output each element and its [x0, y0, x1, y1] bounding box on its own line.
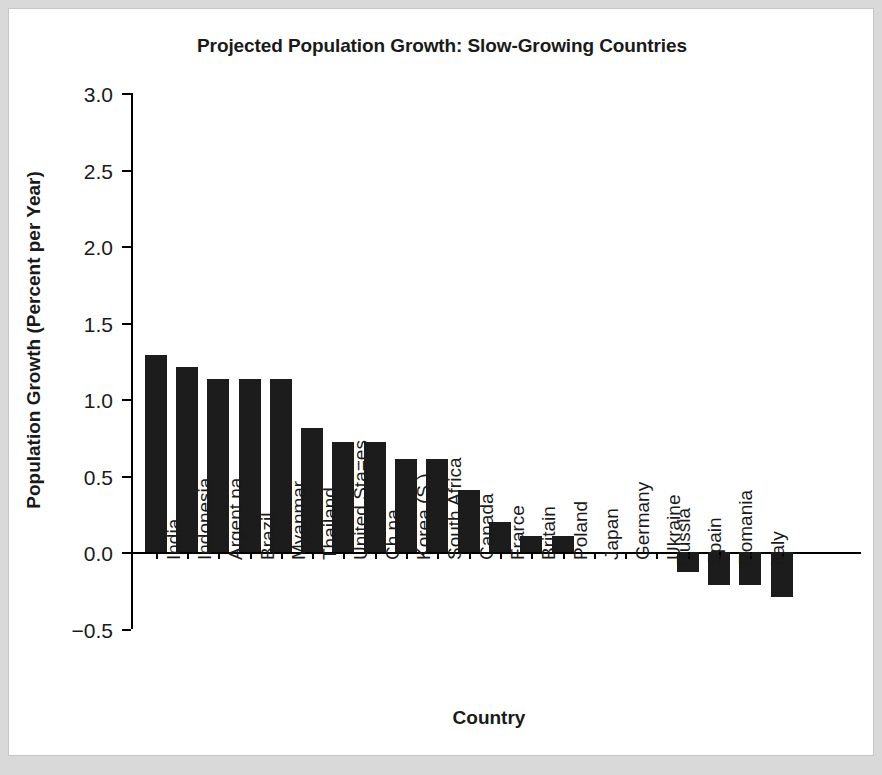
x-tick — [437, 552, 439, 559]
x-tick — [375, 552, 377, 559]
y-tick-label: 2.0 — [43, 236, 113, 260]
x-category-label: South Africa — [444, 458, 466, 560]
x-tick — [312, 552, 314, 559]
y-tick: 1.0 — [122, 399, 131, 401]
y-tick-label: 1.0 — [43, 389, 113, 413]
x-category-label: Japan — [601, 509, 623, 561]
y-tick-label: −0.5 — [43, 619, 113, 643]
x-category-label: Brazil — [257, 513, 279, 561]
x-category-label: Italy — [767, 532, 789, 567]
y-tick-label: 0.0 — [43, 542, 113, 566]
chart-figure: Projected Population Growth: Slow-Growin… — [8, 8, 874, 756]
y-tick: 2.5 — [122, 170, 131, 172]
y-tick-label: 3.0 — [43, 83, 113, 107]
x-category-label: Spain — [704, 518, 726, 567]
x-category-label: India — [163, 519, 185, 560]
x-category-label: United Sta=es — [350, 441, 372, 561]
x-tick — [343, 552, 345, 559]
x-tick — [469, 552, 471, 559]
x-tick — [281, 552, 283, 559]
y-tick: 1.5 — [122, 323, 131, 325]
x-category-label: Frarce — [507, 506, 529, 561]
x-category-label: Britain — [538, 507, 560, 561]
x-category-label: Canada — [476, 494, 498, 561]
plot-area: 3.02.52.01.51.00.50.0−0.5 IndiaIndonesia… — [131, 93, 861, 629]
x-tick — [250, 552, 252, 559]
x-category-label: Thailand — [319, 488, 341, 561]
screenshot-page: Projected Population Growth: Slow-Growin… — [0, 0, 882, 775]
x-tick — [625, 552, 627, 559]
x-axis-title: Country — [119, 707, 859, 729]
x-tick — [156, 552, 158, 559]
x-category-label: Ch na — [382, 510, 404, 561]
x-category-label: Argent na — [225, 478, 247, 560]
x-category-label: Romania — [735, 490, 757, 566]
x-tick — [218, 552, 220, 559]
y-axis-title: Population Growth (Percent per Year) — [23, 110, 45, 570]
chart-title: Projected Population Growth: Slow-Growin… — [9, 35, 875, 57]
x-tick — [531, 552, 533, 559]
x-tick — [406, 552, 408, 559]
x-category-label: Myanmar — [288, 481, 310, 560]
x-category-label: Germany — [632, 482, 654, 560]
x-tick — [594, 552, 596, 559]
y-tick-label: 2.5 — [43, 160, 113, 184]
x-category-label: Korea (S.) — [413, 474, 435, 561]
y-tick-label: 0.5 — [43, 466, 113, 490]
y-tick: −0.5 — [122, 629, 131, 631]
x-tick — [187, 552, 189, 559]
y-tick-label: 1.5 — [43, 313, 113, 337]
y-tick: 2.0 — [122, 246, 131, 248]
y-tick: 0.0 — [122, 552, 131, 554]
x-category-label: Poland — [570, 501, 592, 560]
x-category-label: Indonesia — [194, 478, 216, 560]
x-category-label: Russia — [673, 508, 695, 566]
y-tick: 0.5 — [122, 476, 131, 478]
y-tick: 3.0 — [122, 93, 131, 95]
x-tick — [656, 552, 658, 559]
x-tick — [500, 552, 502, 559]
x-tick — [563, 552, 565, 559]
